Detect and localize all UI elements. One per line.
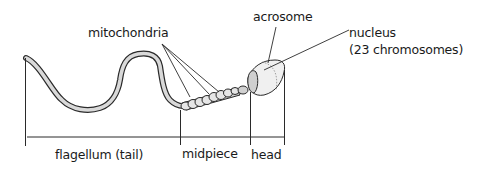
midpiece-region-label: midpiece bbox=[182, 147, 238, 161]
midpiece-shape bbox=[181, 86, 248, 110]
mitochondria-label: mitochondria bbox=[88, 26, 168, 40]
head-region-label: head bbox=[251, 148, 281, 162]
flagellum-region-label: flagellum (tail) bbox=[55, 148, 143, 162]
acrosome-label: acrosome bbox=[253, 10, 312, 24]
flagellum-shape bbox=[26, 54, 183, 110]
head-shape bbox=[248, 60, 285, 95]
nucleus-chromosomes-label: (23 chromosomes) bbox=[349, 43, 463, 57]
nucleus-label: nucleus bbox=[349, 26, 396, 40]
